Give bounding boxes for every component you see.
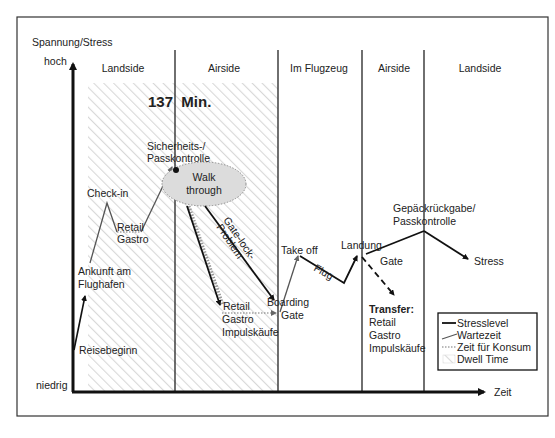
label-checkin: Check-in xyxy=(87,187,129,199)
section-label-landside-2: Landside xyxy=(459,62,502,74)
label-retail2-3: Impulskäufe xyxy=(222,326,279,338)
label-boarding-2: Gate xyxy=(281,309,304,321)
label-transfer-2: Retail xyxy=(369,316,396,328)
label-retail-1: Retail xyxy=(117,221,144,233)
label-walk-1: Walk xyxy=(193,171,217,183)
label-landung: Landung xyxy=(341,239,382,251)
label-transfer-1: Transfer: xyxy=(369,303,414,315)
label-transfer-3: Gastro xyxy=(369,329,401,341)
y-axis-low: niedrig xyxy=(36,379,68,391)
label-transfer-4: Impulskäufe xyxy=(369,342,426,354)
legend-label-konsum: Zeit für Konsum xyxy=(457,341,531,353)
legend-label-dwell: Dwell Time xyxy=(457,353,509,365)
y-axis-high: hoch xyxy=(44,55,67,67)
label-gepaeck-2: Passkontrolle xyxy=(393,215,456,227)
label-reisebeginn: Reisebeginn xyxy=(79,344,138,356)
label-boarding-1: Boarding xyxy=(267,296,309,308)
label-sicherheit-1: Sicherheits-/ xyxy=(147,140,205,152)
section-label-airside: Airside xyxy=(208,62,240,74)
section-label-landside: Landside xyxy=(102,62,145,74)
security-point xyxy=(173,167,179,173)
section-label-im-flugzeug: Im Flugzeug xyxy=(290,62,348,74)
legend-label-wartezeit: Wartezeit xyxy=(457,329,501,341)
legend-swatch-dwell xyxy=(443,355,455,363)
label-takeoff: Take off xyxy=(281,244,318,256)
label-walk-2: through xyxy=(186,184,222,196)
y-axis-label: Spannung/Stress xyxy=(32,36,113,48)
label-sicherheit-2: Passkontrolle xyxy=(147,152,210,164)
x-axis-label: Zeit xyxy=(494,386,512,398)
legend-label-stresslevel: Stresslevel xyxy=(457,317,508,329)
legend: Stresslevel Wartezeit Zeit für Konsum Dw… xyxy=(438,313,537,370)
label-ankunft-2: Flughafen xyxy=(78,278,125,290)
label-retail-2: Gastro xyxy=(117,233,149,245)
stress-journey-diagram: Landside Airside Im Flugzeug Airside Lan… xyxy=(0,0,555,438)
label-retail2-1: Retail xyxy=(223,300,250,312)
label-retail2-2: Gastro xyxy=(222,313,254,325)
label-gepaeck-1: Gepäckrückgabe/ xyxy=(393,202,475,214)
dwell-time-label: 137 Min. xyxy=(148,93,211,110)
section-label-airside-2: Airside xyxy=(378,62,410,74)
label-gate: Gate xyxy=(380,255,403,267)
label-stress: Stress xyxy=(474,255,504,267)
label-ankunft-1: Ankunft am xyxy=(78,265,131,277)
